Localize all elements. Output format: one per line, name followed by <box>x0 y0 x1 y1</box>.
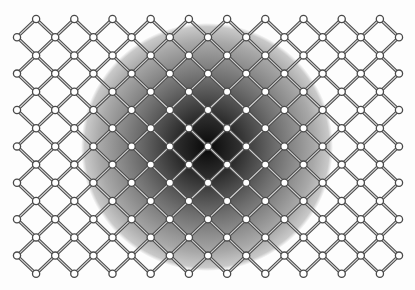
lattice-node <box>262 197 269 204</box>
lattice-node <box>262 125 269 132</box>
lattice-node <box>147 197 154 204</box>
lattice-node <box>395 252 402 259</box>
lattice-node <box>33 52 40 59</box>
lattice-node <box>262 15 269 22</box>
lattice-node <box>128 216 135 223</box>
lattice-node <box>185 15 192 22</box>
lattice-node <box>71 15 78 22</box>
lattice-node <box>300 125 307 132</box>
lattice-node <box>357 34 364 41</box>
lattice-node <box>52 70 59 77</box>
lattice-node <box>319 143 326 150</box>
lattice-node <box>52 252 59 259</box>
lattice-node <box>128 34 135 41</box>
lattice-node <box>147 52 154 59</box>
lattice-node <box>13 252 20 259</box>
lattice-node <box>300 197 307 204</box>
lattice-node <box>338 197 345 204</box>
lattice-node <box>243 252 250 259</box>
lattice-node <box>338 15 345 22</box>
lattice-node <box>357 216 364 223</box>
lattice-node <box>166 216 173 223</box>
lattice-node <box>319 34 326 41</box>
lattice-node <box>243 70 250 77</box>
lattice-node <box>33 125 40 132</box>
lattice-node <box>224 270 231 277</box>
lattice-node <box>338 234 345 241</box>
lattice-node <box>128 179 135 186</box>
lattice-node <box>185 197 192 204</box>
lattice-node <box>300 270 307 277</box>
lattice-node <box>281 216 288 223</box>
lattice-node <box>281 70 288 77</box>
lattice-node <box>204 143 211 150</box>
lattice-node <box>90 106 97 113</box>
lattice-node <box>128 106 135 113</box>
lattice-node <box>13 70 20 77</box>
lattice-node <box>71 197 78 204</box>
lattice-node <box>300 234 307 241</box>
lattice-node <box>376 52 383 59</box>
lattice-node <box>166 143 173 150</box>
lattice-node <box>376 161 383 168</box>
lattice-node <box>395 34 402 41</box>
lattice-node <box>204 216 211 223</box>
lattice-node <box>300 88 307 95</box>
lattice-canvas <box>0 0 415 290</box>
lattice-node <box>147 270 154 277</box>
lattice-node <box>224 15 231 22</box>
lattice-node <box>319 106 326 113</box>
lattice-node <box>147 15 154 22</box>
lattice-node <box>338 88 345 95</box>
lattice-node <box>109 234 116 241</box>
lattice-node <box>13 216 20 223</box>
lattice-node <box>185 234 192 241</box>
lattice-node <box>338 52 345 59</box>
lattice-node <box>71 270 78 277</box>
lattice-node <box>90 179 97 186</box>
lattice-node <box>262 52 269 59</box>
lattice-node <box>52 143 59 150</box>
lattice-node <box>357 179 364 186</box>
lattice-node <box>52 106 59 113</box>
lattice-node <box>281 34 288 41</box>
lattice-node <box>128 143 135 150</box>
lattice-node <box>147 234 154 241</box>
lattice-node <box>338 161 345 168</box>
lattice-node <box>90 216 97 223</box>
lattice-node <box>262 88 269 95</box>
lattice-node <box>243 34 250 41</box>
lattice-node <box>357 143 364 150</box>
lattice-node <box>376 234 383 241</box>
lattice-node <box>33 270 40 277</box>
lattice-node <box>243 106 250 113</box>
lattice-node <box>90 143 97 150</box>
lattice-node <box>33 88 40 95</box>
lattice-node <box>13 106 20 113</box>
lattice-node <box>262 270 269 277</box>
lattice-node <box>13 143 20 150</box>
lattice-node <box>128 70 135 77</box>
lattice-node <box>204 34 211 41</box>
lattice-node <box>109 52 116 59</box>
lattice-node <box>71 234 78 241</box>
lattice-node <box>243 216 250 223</box>
lattice-node <box>338 125 345 132</box>
lattice-node <box>33 15 40 22</box>
lattice-node <box>395 70 402 77</box>
lattice-node <box>357 252 364 259</box>
lattice-node <box>262 161 269 168</box>
lattice-node <box>204 252 211 259</box>
lattice-node <box>300 161 307 168</box>
lattice-node <box>166 179 173 186</box>
lattice-node <box>395 143 402 150</box>
lattice-node <box>357 106 364 113</box>
lattice-node <box>185 270 192 277</box>
lattice-node <box>147 161 154 168</box>
lattice-node <box>109 161 116 168</box>
lattice-node <box>300 15 307 22</box>
lattice-node <box>395 106 402 113</box>
lattice-node <box>319 216 326 223</box>
lattice-node <box>300 52 307 59</box>
lattice-node <box>166 70 173 77</box>
